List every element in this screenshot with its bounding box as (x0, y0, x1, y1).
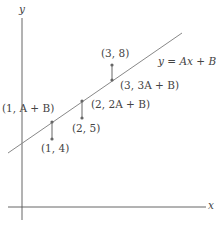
x-axis-label: x (208, 199, 214, 211)
fit-line (8, 33, 182, 153)
point-group-3: (3, 3A + B) (3, 8) (101, 47, 179, 91)
data-point-label-1: (1, 4) (41, 142, 69, 154)
data-point-3 (110, 63, 113, 66)
y-axis-label: y (18, 3, 26, 15)
data-point-2 (80, 116, 83, 119)
fit-line-label: y = Ax + B (157, 55, 216, 67)
data-point-1 (50, 137, 53, 140)
data-point-label-2: (2, 5) (72, 122, 100, 134)
least-squares-diagram: y x y = Ax + B (1, A + B) (1, 4) (2, 2A … (0, 0, 222, 226)
point-group-2: (2, 2A + B) (2, 5) (72, 98, 150, 134)
fit-point-2 (80, 99, 83, 102)
fit-point-1 (50, 120, 53, 123)
fit-point-label-1: (1, A + B) (2, 102, 54, 114)
fit-point-3 (110, 78, 113, 81)
fit-point-label-2: (2, 2A + B) (91, 98, 150, 110)
point-group-1: (1, A + B) (1, 4) (2, 102, 69, 154)
fit-point-label-3: (3, 3A + B) (120, 79, 179, 91)
data-point-label-3: (3, 8) (101, 47, 129, 59)
